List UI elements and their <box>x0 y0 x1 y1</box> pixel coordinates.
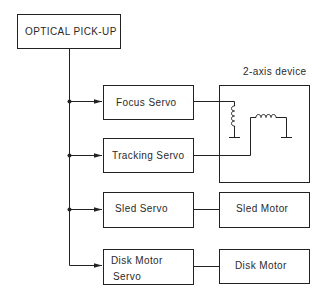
disk-motor-servo-label-line1: Disk Motor <box>111 255 163 266</box>
junction-dot <box>68 154 72 158</box>
optical-pickup-label: OPTICAL PICK-UP <box>25 26 117 37</box>
servo-block-diagram: OPTICAL PICK-UP Focus Servo Tracking Ser… <box>0 0 324 299</box>
two-axis-device-block <box>220 86 310 183</box>
focus-coil-icon <box>232 106 235 137</box>
disk-motor-servo-label-line2: Servo <box>113 271 141 282</box>
tracking-wire <box>194 118 257 156</box>
tracking-servo-label: Tracking Servo <box>112 150 185 161</box>
junction-dot <box>68 100 72 104</box>
focus-wire <box>194 102 235 107</box>
tracking-coil-icon <box>256 115 287 138</box>
two-axis-device-label: 2-axis device <box>243 66 307 77</box>
focus-servo-label: Focus Servo <box>116 97 177 108</box>
sled-servo-label: Sled Servo <box>115 203 168 214</box>
sled-motor-label: Sled Motor <box>236 203 289 214</box>
disk-motor-label: Disk Motor <box>235 260 287 271</box>
junction-dot <box>68 208 72 212</box>
